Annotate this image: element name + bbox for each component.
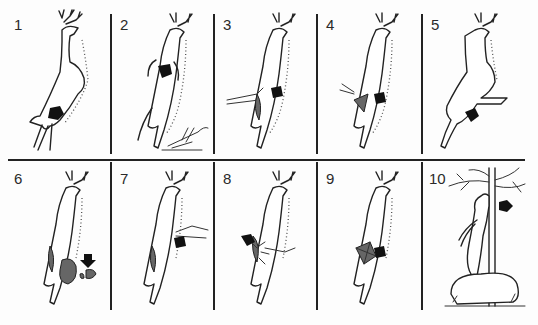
deer-illustration (215, 0, 316, 159)
arrow-icon (499, 200, 513, 212)
arrow-icon (374, 92, 386, 104)
organs-icon (60, 259, 77, 284)
arrow-icon (80, 254, 96, 268)
tree-hanging-illustration (423, 162, 538, 312)
deer-illustration (215, 162, 316, 312)
step-panel-8: 8 (215, 162, 316, 312)
step-panel-9: 9 (318, 162, 421, 312)
tree-branches (449, 168, 525, 192)
step-panel-2: 2 (112, 0, 213, 159)
step-panel-4: 4 (318, 0, 421, 159)
step-panel-10: 10 (423, 162, 538, 312)
step-panel-3: 3 (215, 0, 316, 159)
deer-illustration (423, 0, 538, 159)
arrow-icon (374, 246, 386, 258)
step-panel-5: 5 (423, 0, 538, 159)
hand-knife-icon (162, 128, 208, 151)
step-panel-6: 6 (0, 162, 110, 312)
arrow-icon (271, 86, 283, 98)
deer-illustration (318, 162, 421, 312)
divider-h (8, 159, 525, 161)
deer-illustration (0, 0, 110, 159)
arrow-icon (174, 236, 186, 248)
deer-illustration (112, 0, 213, 159)
step-panel-1: 1 (0, 0, 110, 159)
step-panel-7: 7 (112, 162, 213, 312)
diagram-canvas: 1 2 3 4 (0, 0, 538, 325)
rock (451, 273, 518, 304)
deer-illustration (0, 162, 110, 312)
deer-illustration (112, 162, 213, 312)
deer-illustration (318, 0, 421, 159)
hand-icon (176, 226, 208, 238)
